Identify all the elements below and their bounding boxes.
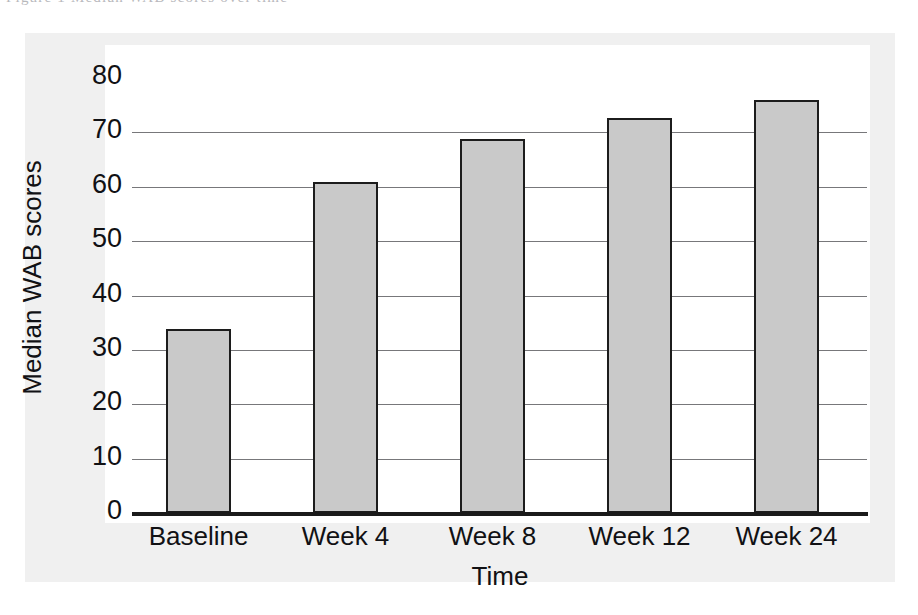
bar	[460, 139, 525, 513]
y-axis-tick-label: 60	[76, 169, 122, 200]
bar	[607, 118, 672, 513]
x-axis-tick-label: Week 24	[713, 521, 860, 552]
y-axis-tick-label: 70	[76, 114, 122, 145]
y-axis-tick-label: 80	[76, 60, 122, 91]
bar	[313, 182, 378, 513]
x-axis-tick-label: Week 4	[272, 521, 419, 552]
y-axis-tick-label: 30	[76, 332, 122, 363]
bar	[166, 329, 231, 513]
x-axis-tick-label: Week 12	[566, 521, 713, 552]
x-axis-title: Time	[132, 561, 868, 592]
y-axis-tick-label: 40	[76, 278, 122, 309]
y-axis-title-wrapper: Median WAB scores	[0, 0, 1, 1]
x-axis-tick-label: Week 8	[419, 521, 566, 552]
y-axis-tick-labels: 01020304050607080	[58, 0, 122, 615]
y-axis-tick-label: 0	[76, 495, 122, 526]
bar	[754, 100, 819, 513]
y-axis-tick-label: 10	[76, 441, 122, 472]
x-axis-tick-label: Baseline	[125, 521, 272, 552]
y-axis-tick-label: 50	[76, 223, 122, 254]
x-axis-line	[132, 512, 868, 516]
y-axis-title: Median WAB scores	[17, 113, 48, 443]
y-axis-tick-label: 20	[76, 386, 122, 417]
